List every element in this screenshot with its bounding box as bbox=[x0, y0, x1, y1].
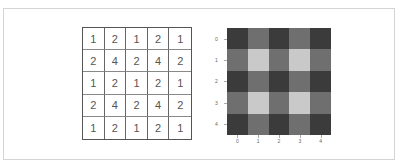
heatmap-cell bbox=[269, 92, 290, 113]
matrix-cell: 2 bbox=[126, 95, 148, 117]
heatmap-cell bbox=[310, 114, 331, 135]
heatmap-cell bbox=[227, 49, 248, 70]
matrix-cell: 2 bbox=[105, 28, 127, 50]
y-tick-label: 1 bbox=[215, 49, 227, 70]
heatmap-cell bbox=[248, 114, 269, 135]
number-matrix-grid: 1212124242121212424212121 bbox=[82, 27, 192, 140]
heatmap-cell bbox=[248, 71, 269, 92]
matrix-cell: 2 bbox=[148, 72, 170, 94]
y-tick-label: 3 bbox=[215, 92, 227, 113]
matrix-cell: 2 bbox=[83, 50, 105, 72]
heatmap-cell bbox=[269, 114, 290, 135]
matrix-cell: 2 bbox=[83, 95, 105, 117]
heatmap-cell bbox=[269, 49, 290, 70]
heatmap-cell bbox=[310, 71, 331, 92]
matrix-cell: 1 bbox=[126, 117, 148, 139]
y-tick-label: 2 bbox=[215, 71, 227, 92]
matrix-cell: 4 bbox=[105, 95, 127, 117]
matrix-cell: 2 bbox=[169, 95, 191, 117]
heatmap-cell bbox=[248, 92, 269, 113]
x-tick-label: 1 bbox=[248, 135, 269, 145]
matrix-cell: 1 bbox=[83, 72, 105, 94]
heatmap-cell bbox=[227, 114, 248, 135]
matrix-cell: 4 bbox=[105, 50, 127, 72]
matrix-cell: 2 bbox=[105, 117, 127, 139]
y-axis-labels: 01234 bbox=[215, 28, 227, 135]
heatmap-cell bbox=[227, 28, 248, 49]
matrix-cell: 4 bbox=[148, 95, 170, 117]
matrix-cell: 2 bbox=[148, 117, 170, 139]
heatmap-cell bbox=[289, 71, 310, 92]
heatmap-cell bbox=[227, 71, 248, 92]
heatmap-cell bbox=[269, 71, 290, 92]
matrix-cell: 1 bbox=[126, 72, 148, 94]
y-tick-label: 4 bbox=[215, 114, 227, 135]
heatmap-cell bbox=[227, 92, 248, 113]
heatmap-cell bbox=[289, 92, 310, 113]
heatmap-cell bbox=[248, 49, 269, 70]
x-tick-label: 3 bbox=[289, 135, 310, 145]
matrix-cell: 2 bbox=[126, 50, 148, 72]
heatmap-cell bbox=[289, 114, 310, 135]
matrix-cell: 1 bbox=[169, 72, 191, 94]
y-tick-label: 0 bbox=[215, 28, 227, 49]
heatmap-cell bbox=[269, 28, 290, 49]
matrix-cell: 2 bbox=[105, 72, 127, 94]
matrix-cell: 1 bbox=[169, 117, 191, 139]
x-tick-label: 2 bbox=[269, 135, 290, 145]
x-tick-label: 4 bbox=[310, 135, 331, 145]
heatmap-cell bbox=[310, 92, 331, 113]
heatmap-plot: 01234 01234 bbox=[227, 28, 331, 135]
heatmap-cell bbox=[310, 49, 331, 70]
matrix-cell: 1 bbox=[169, 28, 191, 50]
heatmap-cell bbox=[289, 49, 310, 70]
matrix-cell: 2 bbox=[148, 28, 170, 50]
x-tick-label: 0 bbox=[227, 135, 248, 145]
heatmap-grid bbox=[227, 28, 331, 135]
x-axis-labels: 01234 bbox=[227, 135, 331, 145]
matrix-cell: 4 bbox=[148, 50, 170, 72]
matrix-cell: 1 bbox=[83, 28, 105, 50]
matrix-cell: 2 bbox=[169, 50, 191, 72]
figure-frame bbox=[3, 8, 395, 160]
matrix-cell: 1 bbox=[83, 117, 105, 139]
heatmap-cell bbox=[310, 28, 331, 49]
matrix-cell: 1 bbox=[126, 28, 148, 50]
heatmap-cell bbox=[289, 28, 310, 49]
heatmap-cell bbox=[248, 28, 269, 49]
